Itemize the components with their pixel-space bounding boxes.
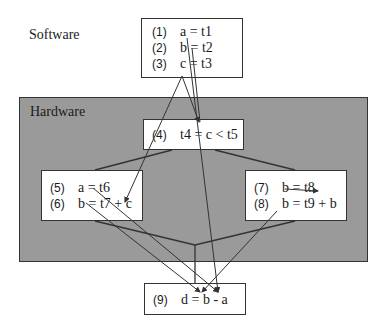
data-edge-a5-to-9 xyxy=(93,188,218,292)
control-edge-4-to-5 xyxy=(95,150,172,170)
data-edge-b7-to-8 xyxy=(285,189,318,191)
dependency-edges xyxy=(0,0,384,335)
control-edge-4-to-7 xyxy=(215,150,295,170)
data-edge-c-to-6 xyxy=(125,76,182,202)
control-edge-6-to-merge xyxy=(95,221,195,245)
data-edge-a1-to-9 xyxy=(187,38,218,292)
data-edge-b6-to-9 xyxy=(86,203,200,292)
